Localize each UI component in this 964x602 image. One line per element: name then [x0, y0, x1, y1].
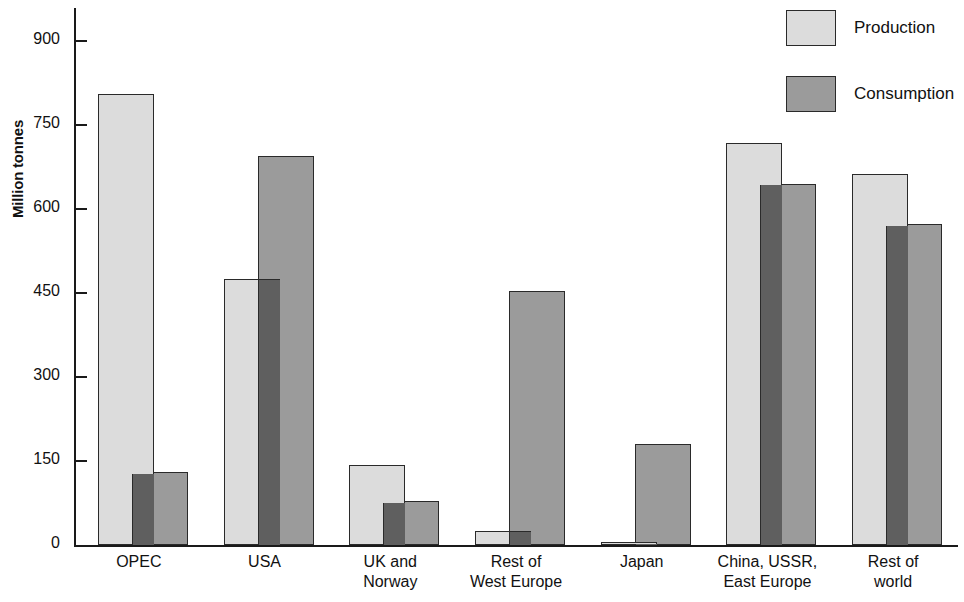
bar-overlap-region	[509, 532, 531, 545]
legend-label-consumption: Consumption	[854, 84, 954, 104]
y-axis-tick-label: 750	[33, 114, 60, 132]
x-axis-label: UK and Norway	[327, 552, 453, 592]
x-axis-label: Rest of world	[830, 552, 956, 592]
y-axis-title: Million tonnes	[4, 18, 32, 218]
y-axis-tick-label: 450	[33, 282, 60, 300]
y-axis-tick-mark	[76, 208, 87, 210]
bar-overlap-region	[635, 544, 657, 545]
y-axis-tick-label: 600	[33, 198, 60, 216]
bar-overlap-region	[886, 226, 908, 545]
x-axis-label: USA	[202, 552, 328, 572]
legend-label-production: Production	[854, 18, 935, 38]
legend-swatch-consumption-icon	[786, 76, 836, 112]
x-axis-label: Japan	[579, 552, 705, 572]
y-axis-line	[74, 8, 76, 547]
y-axis-tick-label: 900	[33, 30, 60, 48]
legend-item-consumption: Consumption	[786, 76, 964, 112]
y-axis-tick-mark	[76, 376, 87, 378]
bar-overlap-region	[132, 474, 154, 545]
y-axis-tick-mark	[76, 124, 87, 126]
y-axis-tick-label: 300	[33, 366, 60, 384]
x-axis-label: China, USSR, East Europe	[705, 552, 831, 592]
bar-consumption	[635, 444, 691, 545]
y-axis-tick-label: 0	[51, 534, 60, 552]
x-axis-line	[74, 545, 958, 547]
bar-overlap-region	[258, 280, 280, 545]
bar-overlap-region	[760, 185, 782, 545]
y-axis-tick-mark	[76, 460, 87, 462]
legend-item-production: Production	[786, 10, 964, 46]
y-axis-tick-label: 150	[33, 450, 60, 468]
bar-overlap-region	[383, 503, 405, 545]
legend-swatch-production-icon	[786, 10, 836, 46]
y-axis-tick-mark	[76, 292, 87, 294]
bar-chart: Million tonnes 0150300450600750900 OPECU…	[0, 0, 964, 602]
bar-consumption	[509, 291, 565, 545]
x-axis-label: Rest of West Europe	[453, 552, 579, 592]
y-axis-tick-mark	[76, 40, 87, 42]
x-axis-label: OPEC	[76, 552, 202, 572]
chart-legend: Production Consumption	[786, 10, 964, 142]
